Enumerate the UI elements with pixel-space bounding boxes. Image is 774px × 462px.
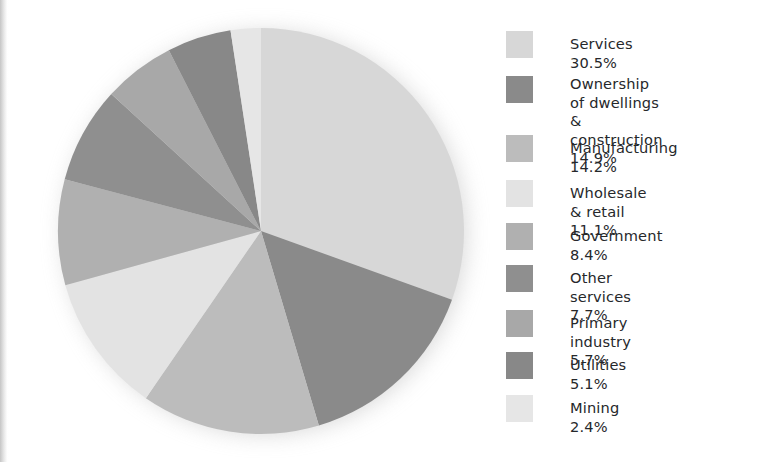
- legend-item[interactable]: Ownership of dwellings & construction 14…: [506, 76, 533, 103]
- legend-color-swatch: [506, 135, 533, 162]
- pie-chart-area: [0, 0, 500, 462]
- legend-item[interactable]: Other services 7.7%: [506, 265, 533, 292]
- pie-figure: [56, 22, 474, 440]
- legend-item-label: Services 30.5%: [570, 35, 633, 72]
- legend-item[interactable]: Utilities 5.1%: [506, 352, 533, 379]
- pie-chart: [56, 22, 474, 440]
- legend-item[interactable]: Manufacturing 14.2%: [506, 135, 533, 162]
- legend-color-swatch: [506, 395, 533, 422]
- chart-legend: Services 30.5%Ownership of dwellings & c…: [506, 22, 774, 440]
- legend-item[interactable]: Government 8.4%: [506, 223, 533, 250]
- legend-color-swatch: [506, 352, 533, 379]
- legend-color-swatch: [506, 76, 533, 103]
- legend-item-label: Mining 2.4%: [570, 399, 619, 436]
- legend-color-swatch: [506, 265, 533, 292]
- legend-item-label: Government 8.4%: [570, 227, 663, 264]
- legend-item-label: Manufacturing 14.2%: [570, 139, 678, 176]
- legend-color-swatch: [506, 180, 533, 207]
- legend-item[interactable]: Wholesale & retail 11.1%: [506, 180, 533, 207]
- legend-item-label: Utilities 5.1%: [570, 356, 626, 393]
- legend-item[interactable]: Services 30.5%: [506, 31, 533, 58]
- legend-item[interactable]: Mining 2.4%: [506, 395, 533, 422]
- legend-color-swatch: [506, 310, 533, 337]
- legend-color-swatch: [506, 223, 533, 250]
- legend-color-swatch: [506, 31, 533, 58]
- legend-item[interactable]: Primary industry 5.7%: [506, 310, 533, 337]
